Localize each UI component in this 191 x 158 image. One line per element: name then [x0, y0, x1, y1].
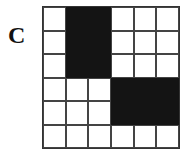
grid-cell-empty	[134, 125, 157, 149]
grid-cell-empty	[134, 54, 157, 78]
grid-cell-empty	[88, 101, 111, 125]
grid-cell-empty	[156, 54, 179, 78]
grid-cell-empty	[111, 125, 134, 149]
grid-cell-empty	[88, 125, 111, 149]
grid-cell-filled	[88, 31, 111, 55]
grid-cell-filled	[111, 101, 134, 125]
grid-cell-empty	[156, 7, 179, 31]
grid-cell-empty	[43, 101, 66, 125]
grid-cell-empty	[43, 125, 66, 149]
grid-cell-empty	[156, 125, 179, 149]
grid-cell-filled	[134, 101, 157, 125]
grid-cell-empty	[43, 7, 66, 31]
grid-cell-empty	[134, 7, 157, 31]
grid-cell-filled	[66, 31, 89, 55]
grid-cell-empty	[66, 101, 89, 125]
grid-cell-filled	[156, 101, 179, 125]
grid-cell-empty	[111, 54, 134, 78]
grid-cell-empty	[111, 7, 134, 31]
grid-cell-empty	[66, 125, 89, 149]
grid-cell-filled	[134, 78, 157, 102]
grid-cell-empty	[111, 31, 134, 55]
grid-cell-empty	[43, 78, 66, 102]
grid-cell-empty	[88, 78, 111, 102]
grid-cell-filled	[66, 7, 89, 31]
grid-cell-empty	[156, 31, 179, 55]
grid-cell-filled	[66, 54, 89, 78]
shaded-grid	[42, 6, 180, 149]
grid-cell-filled	[156, 78, 179, 102]
grid-cell-empty	[134, 31, 157, 55]
grid-cell-empty	[66, 78, 89, 102]
grid-cell-empty	[43, 54, 66, 78]
grid-cell-empty	[43, 31, 66, 55]
grid-cell-filled	[88, 7, 111, 31]
panel-label: C	[8, 23, 25, 47]
grid-cell-filled	[111, 78, 134, 102]
grid-cell-filled	[88, 54, 111, 78]
